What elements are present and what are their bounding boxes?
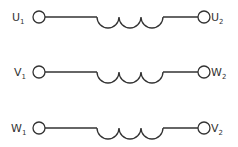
terminal-label-v2: V2 [211,122,223,137]
winding-w: W1 V2 [11,122,223,139]
terminal-v2 [198,122,210,134]
terminal-label-w1: W1 [11,122,26,137]
inductor-coil-icon [97,17,163,28]
winding-v: V1 W2 [14,66,226,83]
terminal-label-u1: U1 [12,11,25,26]
inductor-coil-icon [97,128,163,139]
terminal-u1 [33,11,45,23]
terminal-w2 [198,66,210,78]
winding-diagram: U1 U2 V1 W2 W1 V2 [0,0,238,147]
terminal-v1 [33,66,45,78]
winding-u: U1 U2 [12,11,224,28]
terminal-label-w2: W2 [211,66,226,81]
terminal-u2 [198,11,210,23]
terminal-label-v1: V1 [14,66,26,81]
terminal-label-u2: U2 [211,11,224,26]
inductor-coil-icon [97,72,163,83]
terminal-w1 [33,122,45,134]
